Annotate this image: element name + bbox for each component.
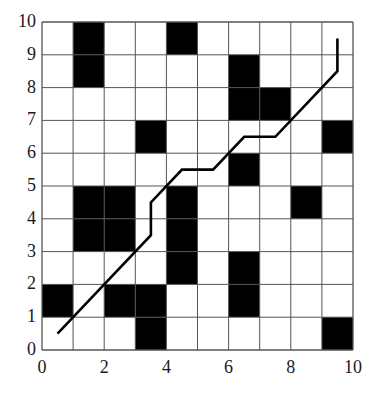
obstacle-cell — [104, 284, 135, 317]
y-tick-label: 8 — [6, 78, 36, 96]
obstacle-cell — [260, 88, 291, 121]
obstacle-cell — [135, 284, 166, 317]
y-tick-label: 2 — [6, 274, 36, 292]
obstacle-cell — [166, 22, 197, 55]
obstacle-cell — [322, 120, 353, 153]
y-tick-label: 1 — [6, 307, 36, 325]
obstacle-cell — [135, 120, 166, 153]
obstacle-cell — [73, 219, 104, 252]
obstacle-cell — [104, 219, 135, 252]
y-tick-label: 7 — [6, 110, 36, 128]
y-tick-label: 4 — [6, 209, 36, 227]
obstacle-cell — [73, 55, 104, 88]
obstacle-cell — [104, 186, 135, 219]
obstacle-cell — [229, 55, 260, 88]
y-tick-label: 6 — [6, 143, 36, 161]
obstacle-cell — [291, 186, 322, 219]
grid-plot — [0, 0, 371, 394]
obstacle-cell — [166, 186, 197, 219]
y-tick-label: 0 — [6, 340, 36, 358]
obstacle-cell — [229, 252, 260, 285]
obstacle-cell — [73, 22, 104, 55]
obstacle-cell — [42, 284, 73, 317]
obstacle-cell — [135, 317, 166, 350]
x-tick-label: 0 — [27, 358, 57, 376]
x-tick-label: 10 — [338, 358, 368, 376]
obstacle-cell — [73, 186, 104, 219]
y-tick-label: 10 — [6, 12, 36, 30]
obstacle-cell — [166, 219, 197, 252]
obstacle-cell — [166, 252, 197, 285]
grid-path-diagram: 012345678910 0246810 — [0, 0, 371, 394]
x-tick-label: 8 — [276, 358, 306, 376]
x-tick-label: 6 — [214, 358, 244, 376]
x-tick-label: 2 — [89, 358, 119, 376]
y-tick-label: 9 — [6, 45, 36, 63]
x-tick-label: 4 — [151, 358, 181, 376]
obstacle-cell — [229, 284, 260, 317]
y-tick-label: 3 — [6, 242, 36, 260]
obstacle-cell — [229, 153, 260, 186]
y-tick-label: 5 — [6, 176, 36, 194]
obstacle-cell — [322, 317, 353, 350]
obstacle-cell — [229, 88, 260, 121]
